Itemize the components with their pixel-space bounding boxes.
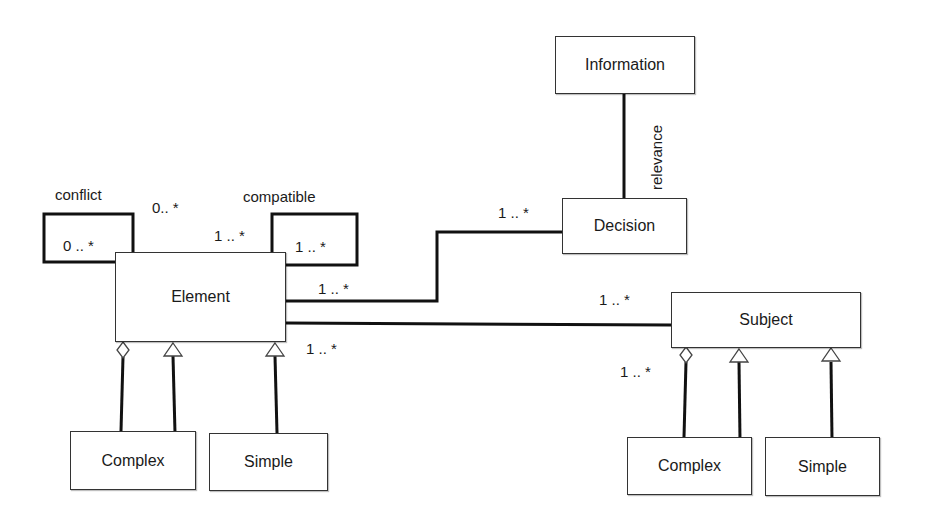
- aggregation-diamond-icon: [680, 347, 692, 363]
- class-subject-simple[interactable]: Simple: [765, 437, 880, 496]
- aggregation-diamond-icon: [117, 342, 129, 358]
- generalization-triangle-icon: [164, 343, 182, 356]
- relevance-label: relevance: [648, 125, 665, 190]
- class-name: Complex: [658, 457, 721, 475]
- compatible-top-multiplicity: 1 .. *: [214, 227, 245, 244]
- class-element-simple[interactable]: Simple: [209, 433, 328, 491]
- class-name: Complex: [101, 452, 164, 470]
- conflict-loop-multiplicity: 0 .. *: [63, 237, 94, 254]
- generalization-triangle-icon: [266, 343, 284, 356]
- conflict-label: conflict: [55, 186, 102, 203]
- class-name: Simple: [244, 453, 293, 471]
- class-information[interactable]: Information: [555, 36, 695, 94]
- subject-multiplicity: 1 .. *: [599, 291, 630, 308]
- generalization-triangle-icon: [822, 348, 840, 361]
- compatible-label: compatible: [243, 188, 316, 205]
- class-name: Decision: [594, 217, 655, 235]
- class-subject[interactable]: Subject: [671, 292, 861, 348]
- conflict-top-multiplicity: 0.. *: [152, 199, 179, 216]
- class-name: Information: [585, 56, 665, 74]
- element-subject-multiplicity: 1 .. *: [306, 340, 337, 357]
- compatible-loop-multiplicity: 1 .. *: [295, 238, 326, 255]
- class-name: Subject: [739, 311, 792, 329]
- class-decision[interactable]: Decision: [562, 198, 687, 254]
- subject-composition-multiplicity: 1 .. *: [620, 363, 651, 380]
- generalization-triangle-icon: [730, 349, 748, 362]
- decision-multiplicity: 1 .. *: [498, 204, 529, 221]
- class-element-complex[interactable]: Complex: [70, 431, 196, 490]
- class-name: Element: [171, 288, 230, 306]
- class-element[interactable]: Element: [115, 252, 286, 342]
- class-subject-complex[interactable]: Complex: [627, 437, 752, 495]
- element-subject-line: [286, 323, 671, 325]
- element-decision-multiplicity: 1 .. *: [318, 280, 349, 297]
- class-name: Simple: [798, 458, 847, 476]
